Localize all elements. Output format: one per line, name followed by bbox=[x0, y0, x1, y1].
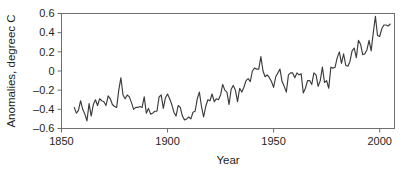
y-tick-label: –0.2 bbox=[33, 84, 54, 96]
x-tick-label: 1900 bbox=[155, 135, 179, 147]
y-tick-label: –0.4 bbox=[33, 103, 54, 115]
y-axis-title: Anomalies, degreec C bbox=[5, 14, 17, 127]
y-tick-label: 0.2 bbox=[39, 46, 54, 58]
y-tick-label: 0.6 bbox=[39, 7, 54, 19]
y-tick-label: –0.6 bbox=[33, 122, 54, 134]
x-tick-label: 1950 bbox=[261, 135, 285, 147]
temperature-anomaly-line-chart: –0.6–0.4–0.200.20.40.6 1850190019502000 … bbox=[0, 0, 417, 170]
x-tick-label: 2000 bbox=[367, 135, 391, 147]
chart-figure: –0.6–0.4–0.200.20.40.6 1850190019502000 … bbox=[0, 0, 417, 170]
y-tick-label: 0.4 bbox=[39, 26, 54, 38]
y-tick-label: 0 bbox=[48, 65, 54, 77]
x-tick-label: 1850 bbox=[49, 135, 73, 147]
x-axis-title: Year bbox=[216, 154, 239, 166]
